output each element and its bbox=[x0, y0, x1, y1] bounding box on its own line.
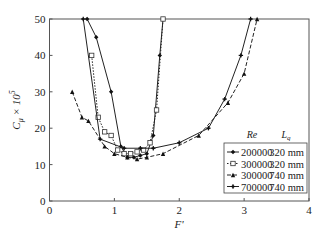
legend-re: 200000 bbox=[241, 147, 273, 158]
y-axis-label: Cμ × 105 bbox=[8, 90, 25, 129]
legend-lq: 320 mm bbox=[269, 147, 304, 158]
legend-re: 700000 bbox=[241, 182, 273, 193]
y-tick-label: 20 bbox=[35, 122, 47, 134]
legend: ReLq200000320 mm300000320 mm300000740 mm… bbox=[224, 129, 307, 193]
x-tick-label: 3 bbox=[241, 204, 247, 216]
y-tick-label: 10 bbox=[35, 159, 47, 171]
legend-lq: 740 mm bbox=[269, 182, 304, 193]
legend-lq: 320 mm bbox=[269, 159, 304, 170]
legend-lq: 740 mm bbox=[269, 170, 304, 181]
legend-re: 300000 bbox=[241, 159, 273, 170]
x-tick-label: 0 bbox=[47, 204, 53, 216]
data-series bbox=[70, 17, 259, 162]
x-tick-label: 1 bbox=[112, 204, 118, 216]
x-tick-label: 4 bbox=[306, 204, 312, 216]
chart: 0123401020304050 ReLq200000320 mm3000003… bbox=[0, 0, 325, 237]
legend-header-lq: Lq bbox=[280, 129, 291, 142]
x-axis-label: F' bbox=[173, 218, 184, 230]
series-1 bbox=[85, 17, 165, 160]
x-tick-label: 2 bbox=[177, 204, 183, 216]
legend-re: 300000 bbox=[241, 170, 273, 181]
y-tick-label: 30 bbox=[35, 86, 47, 98]
y-tick-label: 0 bbox=[40, 195, 46, 207]
y-tick-label: 50 bbox=[35, 13, 47, 25]
legend-header-re: Re bbox=[246, 129, 258, 140]
y-tick-label: 40 bbox=[35, 49, 47, 61]
